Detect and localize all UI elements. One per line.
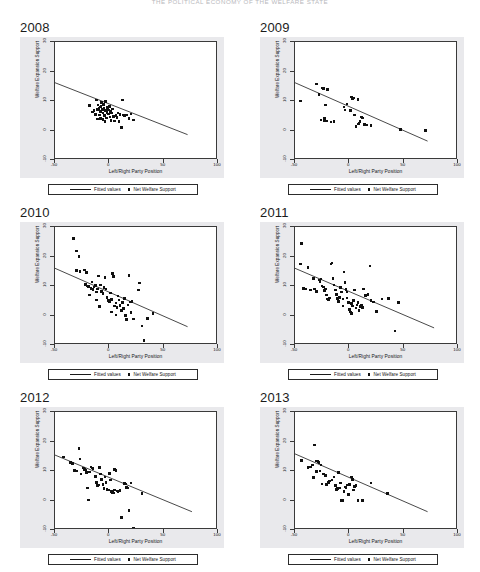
x-tick-label: -50 [45, 532, 63, 537]
scatter-point [367, 293, 370, 296]
scatter-point [104, 100, 107, 103]
legend-item-fitted-values: Fitted values [310, 372, 361, 377]
scatter-point [356, 304, 359, 307]
y-tick-label: 30 [42, 35, 47, 47]
scatter-point [325, 294, 328, 297]
scatter-point [92, 467, 95, 470]
scatter-point [334, 289, 337, 292]
scatter-point [359, 120, 362, 123]
scatter-point [86, 487, 89, 490]
scatter-point [122, 307, 125, 310]
scatter-point [335, 293, 338, 296]
scatter-point [347, 301, 350, 304]
legend-label-fitted-values: Fitted values [334, 187, 361, 192]
plot-region: Welfare Expansion Support3020100-10-5005… [20, 222, 224, 363]
scatter-point [338, 487, 341, 490]
scatter-point [340, 291, 343, 294]
scatter-point [324, 104, 327, 107]
scatter-point [104, 276, 107, 279]
legend-item-net-welfare-support: Net Welfare Support [128, 557, 176, 562]
x-tick-label: -50 [285, 162, 303, 167]
scatter-point [120, 126, 123, 129]
plot-region: Welfare Expansion Support3020100-10-5005… [260, 407, 464, 548]
chart-legend: Fitted valuesNet Welfare Support [288, 554, 438, 565]
scatter-point [95, 291, 98, 294]
scatter-point [358, 309, 361, 312]
scatter-point [85, 471, 88, 474]
scatter-point [105, 481, 108, 484]
x-tick-label: 50 [154, 347, 172, 352]
y-tick-label: 30 [282, 405, 287, 417]
x-tick-mark [54, 159, 55, 163]
scatter-point [338, 296, 341, 299]
scatter-point [326, 88, 329, 91]
scatter-point [88, 294, 91, 297]
x-tick-mark [403, 344, 404, 348]
scatter-point [319, 280, 322, 283]
scatter-point [99, 117, 102, 120]
scatter-point [353, 289, 356, 292]
y-tick-label: 0 [42, 123, 47, 135]
scatter-point [342, 298, 345, 301]
y-axis-label: Welfare Expansion Support [275, 196, 280, 314]
scatter-point [375, 310, 378, 313]
x-tick-mark [108, 159, 109, 163]
chart-panel-2013: 2013Welfare Expansion Support3020100-10-… [240, 388, 480, 566]
scatter-point [117, 295, 120, 298]
scatter-point [127, 304, 130, 307]
scatter-point [350, 312, 353, 315]
legend-label-fitted-values: Fitted values [94, 372, 121, 377]
scatter-point [110, 298, 113, 301]
scatter-point [424, 129, 427, 132]
legend-item-net-welfare-support: Net Welfare Support [368, 372, 416, 377]
scatter-point [105, 117, 108, 120]
scatter-point [120, 516, 123, 519]
legend-label-net-welfare-support: Net Welfare Support [373, 372, 415, 377]
y-axis-label: Welfare Expansion Support [35, 381, 40, 499]
x-axis-label: Left/Right Party Position [54, 354, 217, 359]
plot-region: Welfare Expansion Support3020100-10-5005… [20, 407, 224, 548]
scatter-point [300, 242, 303, 245]
scatter-point [99, 284, 102, 287]
x-axis-label: Left/Right Party Position [54, 539, 217, 544]
legend-dot-swatch [368, 188, 371, 191]
legend-label-net-welfare-support: Net Welfare Support [133, 557, 175, 562]
x-tick-label: -50 [285, 347, 303, 352]
scatter-point [346, 103, 349, 106]
x-tick-label: 50 [154, 162, 172, 167]
chart-panel-2011: 2011Welfare Expansion Support3020100-10-… [240, 203, 480, 388]
x-tick-label: 0 [339, 347, 357, 352]
scatter-point [347, 493, 350, 496]
scatter-point [357, 301, 360, 304]
scatter-point [365, 124, 368, 127]
x-tick-mark [457, 159, 458, 163]
scatter-point [355, 484, 358, 487]
legend-dot-swatch [128, 558, 131, 561]
scatter-point [99, 473, 102, 476]
scatter-point [370, 482, 373, 485]
scatter-point [88, 471, 91, 474]
scatter-point [95, 299, 98, 302]
x-tick-label: 100 [208, 532, 226, 537]
scatter-point [342, 305, 345, 308]
scatter-point [111, 108, 114, 111]
scatter-point [325, 120, 328, 123]
scatter-point [351, 305, 354, 308]
scatter-point [118, 299, 121, 302]
scatter-point [141, 492, 144, 495]
scatter-point [350, 302, 353, 305]
scatter-point [103, 487, 106, 490]
scatter-point [124, 314, 127, 317]
x-tick-label: 100 [208, 162, 226, 167]
x-tick-mark [163, 159, 164, 163]
legend-line-swatch [310, 559, 331, 560]
scatter-point [324, 474, 327, 477]
scatter-point [320, 119, 323, 122]
legend-item-fitted-values: Fitted values [310, 187, 361, 192]
scatter-point [333, 476, 336, 479]
legend-label-net-welfare-support: Net Welfare Support [373, 187, 415, 192]
scatter-point [94, 113, 97, 116]
scatter-point [79, 458, 82, 461]
x-tick-mark [54, 529, 55, 533]
x-tick-label: 50 [394, 347, 412, 352]
